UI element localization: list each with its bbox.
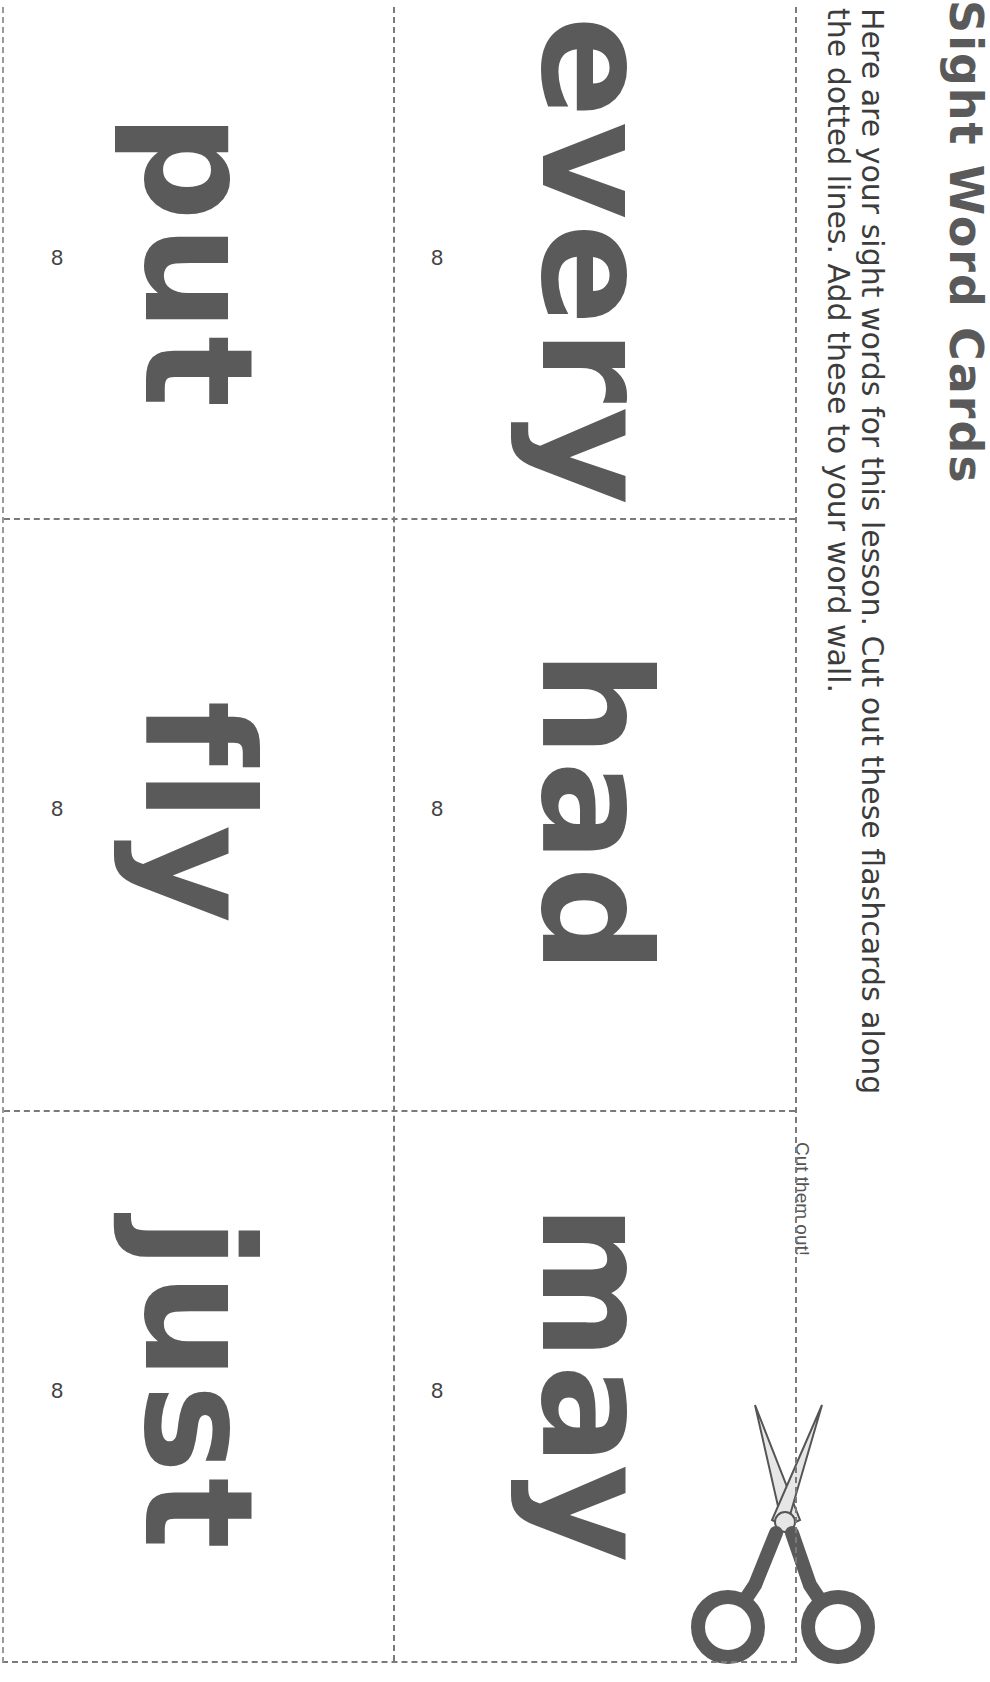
page-title: Sight Word Cards <box>939 0 990 485</box>
card-word: had <box>520 650 670 977</box>
card-word: may <box>520 1204 670 1567</box>
instructions-line-2: the dotted lines. Add these to your word… <box>821 8 855 1408</box>
flashcard-may: may 8 <box>395 1110 795 1661</box>
instructions: Here are your sight words for this lesso… <box>821 8 889 1408</box>
flashcard-every: every 8 <box>395 7 795 518</box>
card-word: just <box>124 1218 274 1553</box>
card-number: 8 <box>431 796 443 822</box>
card-number: 8 <box>51 245 63 271</box>
card-word: put <box>124 114 274 412</box>
instructions-line-1: Here are your sight words for this lesso… <box>855 8 889 1408</box>
card-number: 8 <box>431 1378 443 1404</box>
card-word: fly <box>124 701 274 927</box>
card-word: every <box>520 16 670 509</box>
card-number: 8 <box>51 796 63 822</box>
flashcard-just: just 8 <box>2 1110 395 1661</box>
flashcard-had: had 8 <box>395 518 795 1110</box>
card-number: 8 <box>51 1378 63 1404</box>
flashcard-put: put 8 <box>2 7 395 518</box>
flashcard-fly: fly 8 <box>2 518 395 1110</box>
card-number: 8 <box>431 245 443 271</box>
flashcard-grid: every 8 had 8 may 8 put 8 fly 8 just 8 <box>2 7 797 1663</box>
